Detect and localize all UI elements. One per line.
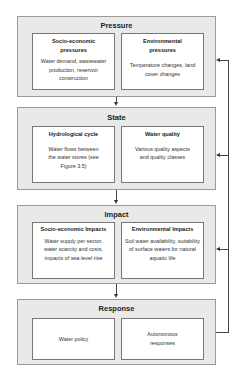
arrow-down-icon — [114, 200, 118, 204]
feedback-line — [220, 60, 229, 61]
socio-economic-impacts-box: Socio-economic Impacts Water supply per … — [32, 222, 115, 279]
box-description: Soil water availability, suitability of … — [122, 237, 203, 263]
feedback-line — [228, 60, 229, 333]
arrow-left-icon — [216, 247, 220, 251]
impact-stage: Impact Socio-economic Impacts Water supp… — [17, 205, 216, 284]
box-description: Water demand, wastewater production, res… — [33, 57, 114, 83]
response-stage: Response Water policy Autonomous respons… — [17, 299, 216, 365]
box-title: Environmental Impacts — [122, 225, 203, 234]
box-description: Water flows between the water stores (se… — [33, 145, 114, 171]
feedback-line — [220, 155, 229, 156]
arrow-left-icon — [216, 153, 220, 157]
feedback-line — [220, 249, 229, 250]
stage-title: Pressure — [18, 21, 215, 30]
box-title: Socio-economic pressures — [33, 37, 114, 54]
arrow-down-icon — [114, 102, 118, 106]
stage-title: State — [18, 113, 215, 122]
box-title: Environmental pressures — [122, 37, 203, 54]
pressure-stage: Pressure Socio-economic pressures Water … — [17, 16, 216, 97]
state-stage: State Hydrological cycle Water flows bet… — [17, 107, 216, 190]
arrow-left-icon — [216, 58, 220, 62]
socio-economic-pressures-box: Socio-economic pressures Water demand, w… — [32, 33, 115, 90]
hydrological-cycle-box: Hydrological cycle Water flows between t… — [32, 126, 115, 183]
box-title: Water quality — [122, 130, 203, 139]
box-title: Socio-economic Impacts — [33, 225, 114, 234]
autonomous-responses-box: Autonomous responses — [121, 318, 204, 360]
water-policy-box: Water policy — [32, 318, 115, 360]
box-description: Temperature changes, land cover changes — [122, 61, 203, 78]
stage-title: Impact — [18, 210, 215, 219]
environmental-impacts-box: Environmental Impacts Soil water availab… — [121, 222, 204, 279]
box-description: Various quality aspects and quality clas… — [122, 145, 203, 162]
stage-title: Response — [18, 304, 215, 313]
water-quality-box: Water quality Various quality aspects an… — [121, 126, 204, 183]
arrow-down-icon — [114, 294, 118, 298]
box-description: Autonomous responses — [122, 330, 203, 347]
box-title: Hydrological cycle — [33, 130, 114, 139]
box-description: Water policy — [33, 335, 114, 344]
environmental-pressures-box: Environmental pressures Temperature chan… — [121, 33, 204, 90]
box-description: Water supply per sector, water scarcity … — [33, 237, 114, 263]
